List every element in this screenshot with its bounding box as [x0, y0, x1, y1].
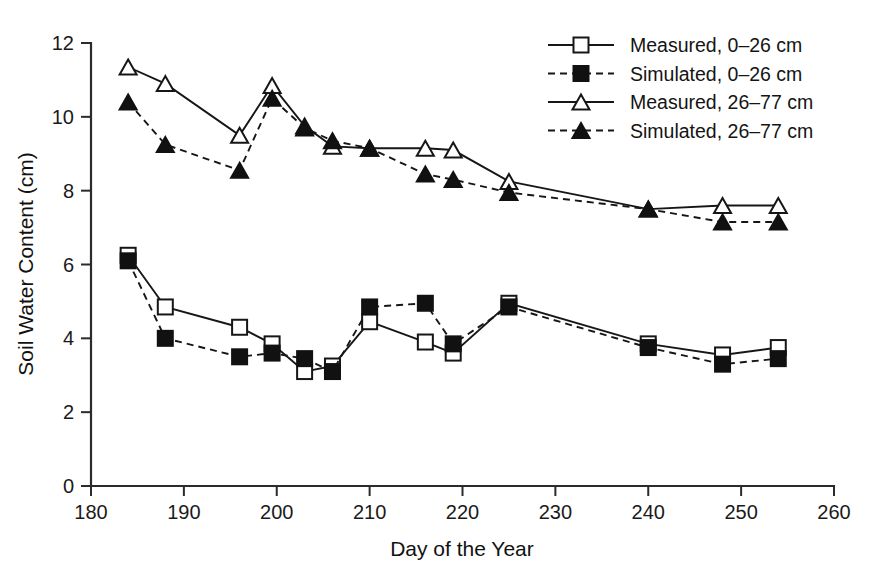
- x-tick-label: 220: [446, 501, 479, 523]
- legend-label: Measured, 0–26 cm: [630, 34, 802, 56]
- marker-filled-square: [297, 351, 312, 366]
- y-tick-label: 4: [63, 327, 74, 349]
- x-tick-label: 240: [632, 501, 665, 523]
- marker-open-square: [362, 314, 377, 329]
- x-tick-label: 210: [353, 501, 386, 523]
- y-tick-label: 2: [63, 401, 74, 423]
- marker-open-square: [574, 38, 589, 53]
- legend-item: Measured, 0–26 cm: [548, 34, 802, 56]
- marker-filled-square: [121, 253, 136, 268]
- legend-label: Simulated, 0–26 cm: [630, 63, 802, 85]
- y-tick-label: 0: [63, 475, 74, 497]
- x-tick-label: 200: [260, 501, 293, 523]
- marker-filled-square: [501, 299, 516, 314]
- chart-figure: 024681012180190200210220230240250260 Soi…: [0, 0, 869, 584]
- x-tick-label: 260: [817, 501, 850, 523]
- marker-filled-square: [771, 351, 786, 366]
- marker-open-square: [232, 320, 247, 335]
- soil-water-content-line-chart: 024681012180190200210220230240250260 Soi…: [0, 0, 869, 584]
- chart-background: [0, 0, 869, 584]
- x-axis-title: Day of the Year: [390, 537, 534, 560]
- legend-label: Simulated, 26–77 cm: [630, 120, 813, 142]
- marker-filled-square: [362, 299, 377, 314]
- y-tick-label: 10: [52, 106, 74, 128]
- y-tick-label: 12: [52, 32, 74, 54]
- legend-label: Measured, 26–77 cm: [630, 91, 813, 113]
- x-tick-label: 180: [74, 501, 107, 523]
- legend-item: Simulated, 0–26 cm: [548, 63, 802, 85]
- marker-open-square: [418, 335, 433, 350]
- marker-filled-square: [265, 346, 280, 361]
- marker-filled-square: [574, 66, 589, 81]
- y-tick-label: 6: [63, 254, 74, 276]
- marker-filled-square: [715, 357, 730, 372]
- marker-filled-square: [325, 364, 340, 379]
- x-tick-label: 230: [539, 501, 572, 523]
- x-tick-label: 190: [167, 501, 200, 523]
- y-axis-title: Soil Water Content (cm): [14, 152, 37, 375]
- marker-filled-square: [446, 336, 461, 351]
- marker-open-square: [158, 299, 173, 314]
- x-tick-label: 250: [724, 501, 757, 523]
- marker-filled-square: [232, 349, 247, 364]
- marker-filled-square: [418, 296, 433, 311]
- marker-filled-square: [641, 340, 656, 355]
- marker-filled-square: [158, 331, 173, 346]
- y-tick-label: 8: [63, 180, 74, 202]
